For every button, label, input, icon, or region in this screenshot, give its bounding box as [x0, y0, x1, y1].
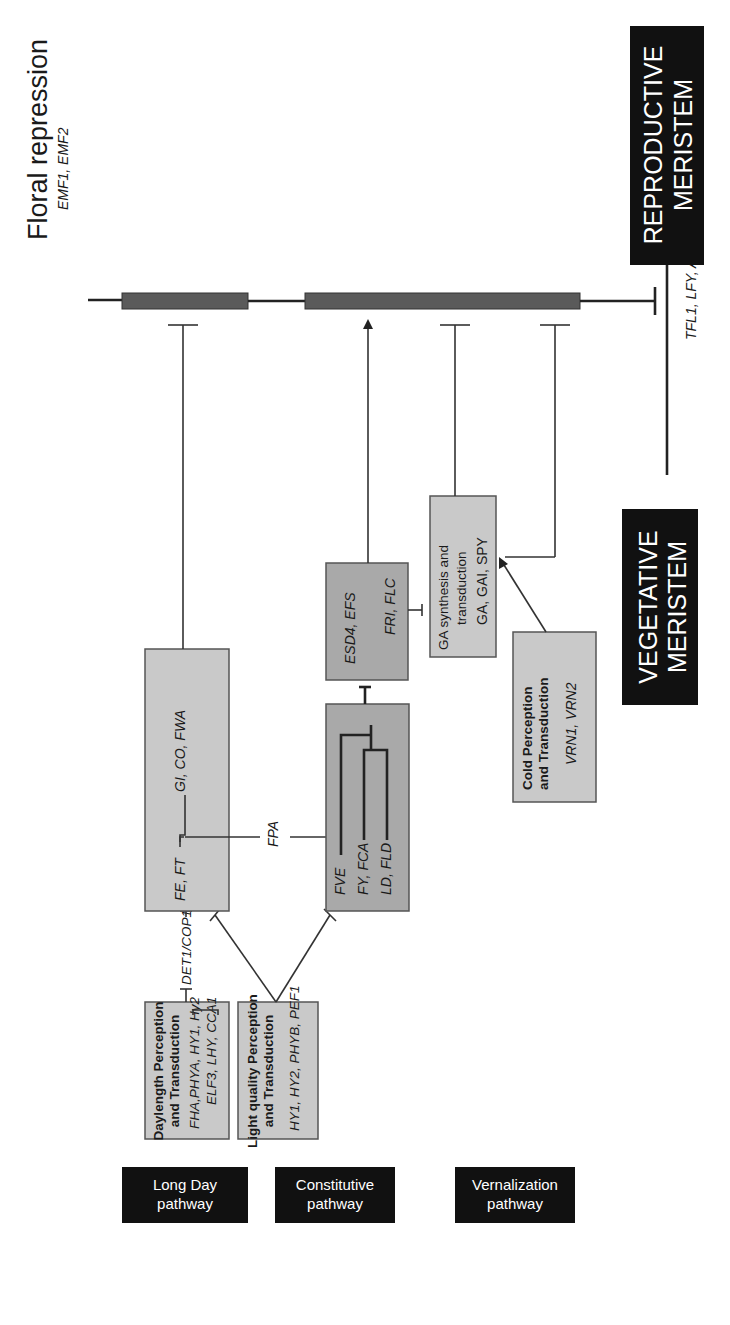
svg-text:and Transduction: and Transduction: [261, 1015, 276, 1128]
pathway-label-constitutive: Constitutive pathway: [275, 1167, 395, 1223]
svg-text:and Transduction: and Transduction: [536, 677, 551, 790]
pathway-label-vernalization: Vernalization pathway: [455, 1167, 575, 1223]
svg-text:VRN1, VRN2: VRN1, VRN2: [563, 682, 579, 765]
long-day-core-box: FE, FT GI, CO, FWA: [145, 649, 229, 911]
long-day-to-repression-inhibition: [168, 325, 198, 649]
svg-text:FHA,PHYA, HY1, Hy2: FHA,PHYA, HY1, Hy2: [187, 996, 202, 1129]
svg-text:Long Day: Long Day: [153, 1176, 218, 1193]
cold-to-repression-inhibition: [505, 325, 570, 557]
svg-text:Vernalization: Vernalization: [472, 1176, 558, 1193]
svg-text:Cold Perception: Cold Perception: [520, 686, 535, 790]
svg-text:FE, FT: FE, FT: [172, 857, 188, 901]
svg-text:ESD4, EFS: ESD4, EFS: [342, 592, 358, 664]
svg-text:REPRODUCTIVE: REPRODUCTIVE: [639, 46, 667, 245]
constitutive-to-esd4-inhibition: [359, 687, 371, 704]
vegetative-meristem-label: VEGETATIVE MERISTEM: [622, 509, 698, 705]
esd4-efs-box: ESD4, EFS FRI, FLC: [326, 563, 408, 680]
svg-text:Constitutive: Constitutive: [296, 1176, 374, 1193]
svg-text:GI, CO, FWA: GI, CO, FWA: [172, 710, 188, 792]
svg-text:LD, FLD: LD, FLD: [378, 843, 394, 895]
svg-text:GA synthesis and: GA synthesis and: [436, 545, 451, 650]
floral-repression-bar: [88, 287, 655, 315]
svg-text:EMF1, EMF2: EMF1, EMF2: [55, 127, 71, 210]
svg-text:ELF3, LHY, CCA1: ELF3, LHY, CCA1: [204, 997, 219, 1105]
svg-text:pathway: pathway: [487, 1195, 543, 1212]
svg-text:MERISTEM: MERISTEM: [669, 79, 697, 211]
floral-repression-title: Floral repression EMF1, EMF2: [23, 39, 71, 240]
svg-text:FRI, FLC: FRI, FLC: [382, 577, 398, 635]
reproductive-meristem-label: REPRODUCTIVE MERISTEM: [630, 26, 704, 265]
diagram-stage: Long Day pathway Constitutive pathway Ve…: [0, 0, 730, 1325]
svg-text:MERISTEM: MERISTEM: [663, 541, 691, 673]
svg-text:HY1, HY2, PHYB, PEF1: HY1, HY2, PHYB, PEF1: [287, 985, 302, 1131]
cold-to-ga-arrow: [499, 557, 546, 632]
det1-cop1-connector: DET1/COP1: [179, 910, 194, 1002]
cold-perception-box: Cold Perception and Transduction VRN1, V…: [513, 632, 596, 802]
svg-text:Floral repression: Floral repression: [23, 39, 53, 240]
light-quality-inhibition-lines: [210, 909, 336, 1002]
svg-text:Daylength Perception: Daylength Perception: [151, 1002, 166, 1141]
meristem-transition-arrow: TFL1, LFY, AP1: [659, 241, 699, 475]
esd4-to-repression-arrow: [363, 319, 373, 563]
svg-text:pathway: pathway: [307, 1195, 363, 1212]
constitutive-core-box: FVE FY, FCA LD, FLD: [326, 704, 409, 911]
svg-text:Light quality Perception: Light quality Perception: [245, 994, 260, 1148]
pathway-label-long-day: Long Day pathway: [122, 1167, 248, 1223]
daylength-perception-box: Daylength Perception and Transduction FH…: [145, 996, 229, 1140]
floral-pathway-diagram: Long Day pathway Constitutive pathway Ve…: [0, 0, 730, 1325]
ga-to-repression-inhibition: [440, 325, 470, 496]
svg-text:FVE: FVE: [332, 867, 348, 895]
ga-synthesis-box: GA synthesis and transduction GA, GAI, S…: [430, 496, 496, 657]
light-quality-perception-box: Light quality Perception and Transductio…: [238, 985, 318, 1147]
svg-text:DET1/COP1: DET1/COP1: [179, 910, 194, 985]
flc-to-ga-inhibition: [408, 604, 422, 616]
svg-text:and Transduction: and Transduction: [167, 1015, 182, 1128]
svg-text:pathway: pathway: [157, 1195, 213, 1212]
svg-text:GA, GAI, SPY: GA, GAI, SPY: [474, 536, 490, 625]
svg-text:FY, FCA: FY, FCA: [355, 843, 371, 895]
svg-text:FPA: FPA: [265, 821, 281, 847]
svg-text:transduction: transduction: [454, 551, 469, 625]
svg-text:VEGETATIVE: VEGETATIVE: [634, 530, 662, 683]
